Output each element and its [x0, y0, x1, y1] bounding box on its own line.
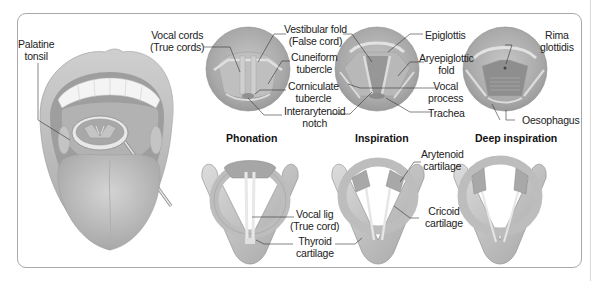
label-cuneiform-tubercle: Cuneiformtubercle	[291, 51, 338, 75]
label-trachea: Trachea	[428, 107, 465, 119]
deep-inspiration-cartilage-view	[454, 160, 546, 264]
label-thyroid-cartilage: Thyroidcartilage	[296, 235, 334, 259]
label-corniculate-tubercle: Corniculatetubercle	[288, 80, 339, 104]
label-interarytenoid-notch: Interarytenoidnotch	[284, 105, 345, 129]
label-vocal-cords: Vocal cords(True cords)	[150, 29, 204, 53]
label-rima-glottidis: Rimaglottidis	[540, 29, 574, 53]
inspiration-cartilage-view	[332, 162, 424, 264]
label-cricoid-cartilage: Cricoidcartilage	[425, 205, 463, 229]
title-inspiration: Inspiration	[355, 132, 409, 144]
label-vestibular-fold: Vestibular fold(False cord)	[284, 23, 347, 47]
label-aryepiglottic-fold: Aryepiglotticfold	[419, 52, 474, 76]
title-deep-inspiration: Deep inspiration	[475, 132, 557, 144]
deep-inspiration-laryngoscopic-view	[463, 27, 547, 111]
title-phonation: Phonation	[226, 132, 277, 144]
open-mouth-illustration	[40, 49, 173, 250]
label-oesophagus: Oesophagus	[522, 114, 580, 126]
label-vocal-process: Vocalprocess	[428, 80, 463, 104]
label-arytenoid-cartilage: Arytenoidcartilage	[421, 148, 464, 172]
label-epiglottis: Epiglottis	[425, 29, 466, 41]
label-vocal-lig: Vocal lig(True cord)	[290, 208, 339, 232]
inspiration-laryngoscopic-view	[335, 27, 419, 111]
phonation-cartilage-view	[202, 161, 298, 265]
label-palatine-tonsil: Palatinetonsil	[18, 38, 54, 62]
